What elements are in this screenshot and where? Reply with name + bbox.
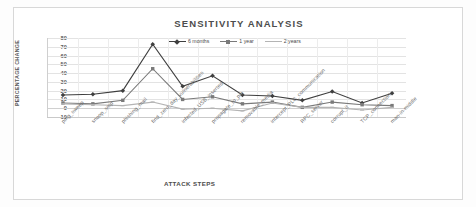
legend-marker <box>226 40 230 44</box>
legend-line-swatch <box>169 41 186 42</box>
legend-item[interactable]: 2 years <box>265 38 301 44</box>
legend-label: 6 months <box>188 38 209 44</box>
data-point <box>61 93 66 98</box>
data-point <box>151 67 154 70</box>
data-point <box>331 100 334 103</box>
legend-label: 1 year <box>239 38 253 44</box>
data-point <box>121 99 124 102</box>
legend-marker <box>174 39 180 45</box>
data-point <box>360 103 363 106</box>
data-point <box>91 92 96 97</box>
chart-screenshot: SENSITIVITY ANALYSIS PERCENTAGE CHANGE 8… <box>0 0 476 207</box>
chart-title: SENSITIVITY ANALYSIS <box>14 18 464 29</box>
data-point <box>300 98 305 103</box>
legend-item[interactable]: 1 year <box>220 38 253 44</box>
legend-line-swatch <box>265 41 282 42</box>
legend-line-swatch <box>220 41 237 42</box>
data-point <box>181 98 184 101</box>
x-axis-title: ATTACK STEPS <box>164 180 215 187</box>
legend-label: 2 years <box>284 38 301 44</box>
series-line <box>63 44 392 103</box>
chart-legend: 6 months1 year2 years <box>169 38 301 44</box>
y-axis-title: PERCENTAGE CHANGE <box>14 34 24 113</box>
chart-frame: SENSITIVITY ANALYSIS PERCENTAGE CHANGE 8… <box>13 7 463 200</box>
data-point <box>330 89 335 94</box>
legend-item[interactable]: 6 months <box>169 38 209 44</box>
legend-marker <box>271 41 276 42</box>
data-point <box>241 102 244 105</box>
